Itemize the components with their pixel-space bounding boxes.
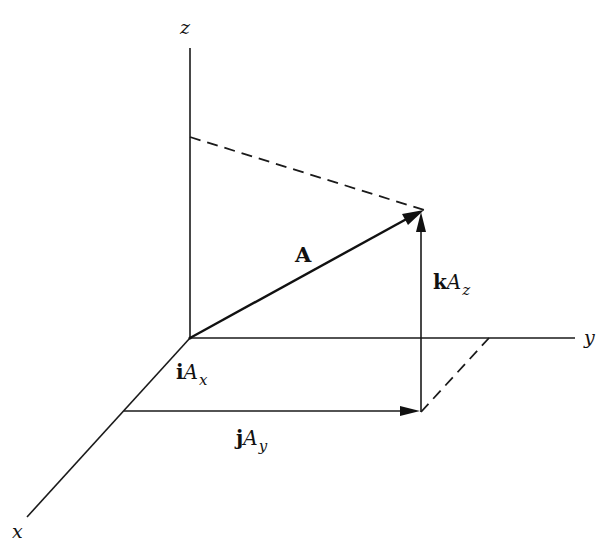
- subscript-y: y: [259, 437, 267, 455]
- magnitude-a-x: A: [184, 360, 198, 384]
- y-axis-label: y: [584, 328, 595, 347]
- y-component-arrowhead-icon: [400, 406, 420, 416]
- z-axis-label: z: [180, 18, 190, 37]
- y-component-label: jAy: [236, 428, 267, 448]
- subscript-z: z: [462, 281, 470, 299]
- unit-vector-k: k: [433, 270, 447, 294]
- magnitude-a-z: A: [447, 270, 461, 294]
- z-component-label: kAz: [433, 272, 470, 292]
- vector-components-diagram: z y x A kAz iAx jAy: [0, 0, 614, 553]
- origin-point: [188, 336, 191, 339]
- x-axis: [27, 338, 190, 517]
- x-axis-label: x: [12, 522, 23, 541]
- unit-vector-i: i: [176, 360, 184, 384]
- vector-a-line: [190, 216, 412, 338]
- dashed-projection-z: [190, 137, 424, 210]
- subscript-x: x: [199, 371, 207, 389]
- x-component-label: iAx: [176, 362, 208, 382]
- dashed-projection-y: [421, 338, 489, 412]
- vector-a-label: A: [295, 244, 311, 265]
- magnitude-a-y: A: [243, 426, 257, 450]
- diagram-canvas: [0, 0, 614, 553]
